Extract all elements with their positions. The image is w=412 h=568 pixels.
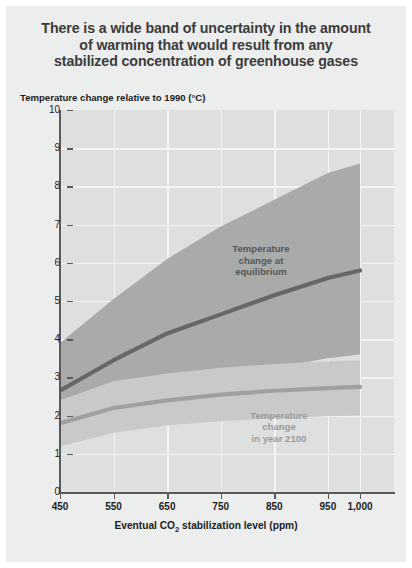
x-axis-tick <box>167 494 168 499</box>
annotation-equilibrium-line-2: change at <box>232 255 289 266</box>
annotation-equilibrium-line-3: equilibrium <box>232 266 289 277</box>
y-axis-label: Temperature change relative to 1990 (°C) <box>20 92 205 103</box>
annotation-year-2100-line-1: Temperature <box>250 410 307 421</box>
y-axis-tick-label: 9 <box>38 142 60 153</box>
y-axis-tick-label: 6 <box>38 257 60 268</box>
y-axis-tick-label: 1 <box>38 448 60 459</box>
x-axis-tick-label: 650 <box>147 501 187 512</box>
x-axis-label: Eventual CO2 stabilization level (ppm) <box>6 520 406 534</box>
x-axis-ticks: 4505506507508509501,000 <box>60 494 396 520</box>
annotation-equilibrium: Temperature change at equilibrium <box>232 243 289 277</box>
y-axis-tick <box>67 148 73 149</box>
title-line-3: stabilized concentration of greenhouse g… <box>6 53 406 70</box>
x-axis-label-suffix: stabilization level (ppm) <box>179 520 297 531</box>
annotation-year-2100-line-3: in year 2100 <box>250 433 307 444</box>
annotation-equilibrium-line-1: Temperature <box>232 243 289 254</box>
x-axis-tick <box>360 494 361 499</box>
y-axis-tick <box>67 263 73 264</box>
x-axis-tick <box>60 494 61 499</box>
y-axis-ticks: 109876543210 <box>20 110 60 500</box>
x-axis-tick-label: 1,000 <box>340 501 380 512</box>
y-axis-tick-label: 3 <box>38 371 60 382</box>
y-axis-tick <box>67 454 73 455</box>
plot-area: Temperature change at equilibrium Temper… <box>60 110 394 492</box>
x-axis-tick <box>114 494 115 499</box>
y-axis-tick-label: 0 <box>38 486 60 497</box>
y-axis-tick-label: 4 <box>38 333 60 344</box>
x-axis-tick-label: 450 <box>40 501 80 512</box>
x-axis-tick <box>274 494 275 499</box>
title-line-1: There is a wide band of uncertainty in t… <box>6 20 406 37</box>
chart-figure: There is a wide band of uncertainty in t… <box>6 6 406 562</box>
x-axis-tick-label: 550 <box>94 501 134 512</box>
y-axis-tick <box>67 339 73 340</box>
x-axis-tick <box>221 494 222 499</box>
y-axis-tick <box>67 301 73 302</box>
y-axis-tick <box>67 377 73 378</box>
y-axis-tick <box>67 110 73 111</box>
y-axis-tick-label: 7 <box>38 219 60 230</box>
x-axis-tick <box>328 494 329 499</box>
x-axis-tick-label: 850 <box>254 501 294 512</box>
y-axis-tick-label: 5 <box>38 295 60 306</box>
annotation-year-2100: Temperature change in year 2100 <box>250 410 307 444</box>
x-axis-tick-label: 750 <box>201 501 241 512</box>
x-axis-label-prefix: Eventual CO <box>114 520 175 531</box>
y-axis-tick <box>67 225 73 226</box>
y-axis-tick <box>67 186 73 187</box>
y-axis-tick-label: 10 <box>38 104 60 115</box>
annotation-year-2100-line-2: change <box>250 421 307 432</box>
y-axis-tick-label: 8 <box>38 180 60 191</box>
y-axis-tick <box>67 416 73 417</box>
chart-title: There is a wide band of uncertainty in t… <box>6 20 406 70</box>
chart-series <box>60 110 394 492</box>
title-line-2: of warming that would result from any <box>6 37 406 54</box>
y-axis-tick-label: 2 <box>38 410 60 421</box>
